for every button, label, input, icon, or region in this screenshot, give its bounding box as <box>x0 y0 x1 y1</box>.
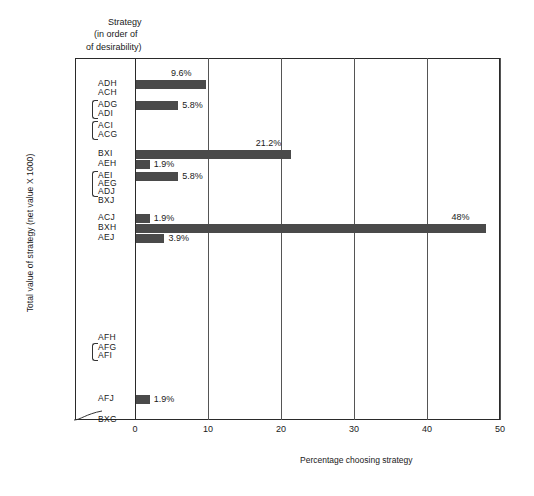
strategy-group-brace-2 <box>92 121 98 140</box>
plot-area <box>135 58 500 420</box>
bar-1.9-3 <box>136 160 150 169</box>
gridline-10 <box>208 58 209 420</box>
bar-value-label-7: 3.9% <box>168 233 189 243</box>
bar-3.9-7 <box>136 234 164 243</box>
bar-value-label-8: 1.9% <box>154 394 175 404</box>
bar-value-label-2: 21.2% <box>256 138 282 148</box>
x-tick-10: 10 <box>193 424 223 434</box>
gridline-50 <box>500 58 501 420</box>
strategy-label-ACG: ACG <box>98 129 117 139</box>
bar-48-6 <box>136 224 486 233</box>
strategy-label-ACJ: ACJ <box>98 212 115 222</box>
x-tick-40: 40 <box>412 424 442 434</box>
bar-9.6-0 <box>136 80 206 89</box>
bar-5.8-1 <box>136 101 178 110</box>
x-axis-title: Percentage choosing strategy <box>300 455 412 465</box>
strategy-label-AFH: AFH <box>98 332 116 342</box>
bar-value-label-4: 5.8% <box>182 171 203 181</box>
x-tick-20: 20 <box>266 424 296 434</box>
strategy-group-brace-1 <box>92 100 98 119</box>
bar-value-label-1: 5.8% <box>182 100 203 110</box>
bar-value-label-3: 1.9% <box>154 159 175 169</box>
strategy-label-BXH: BXH <box>98 222 116 232</box>
x-tick-50: 50 <box>485 424 515 434</box>
strategy-label-AFI: AFI <box>98 350 112 360</box>
bar-5.8-4 <box>136 172 178 181</box>
gridline-40 <box>427 58 428 420</box>
strategy-label-column: ADHACHADGADIACIACGBXIAEHAEIAEGADJBXJACJB… <box>0 0 135 496</box>
gridline-30 <box>354 58 355 420</box>
x-tick-30: 30 <box>339 424 369 434</box>
strategy-label-AEH: AEH <box>98 158 116 168</box>
strategy-label-AEJ: AEJ <box>98 232 115 242</box>
strategy-label-ADI: ADI <box>98 108 113 118</box>
bar-1.9-5 <box>136 214 150 223</box>
bar-chart-figure: Total value of strategy (net value X 100… <box>0 0 534 496</box>
bar-value-label-6: 48% <box>451 212 469 222</box>
bar-21.2-2 <box>136 150 291 159</box>
gridline-20 <box>281 58 282 420</box>
strategy-group-brace-3 <box>92 171 98 197</box>
bxg-leader-line <box>72 400 106 422</box>
strategy-label-ACH: ACH <box>98 87 117 97</box>
bar-value-label-5: 1.9% <box>154 213 175 223</box>
strategy-group-brace-4 <box>92 343 98 361</box>
bar-1.9-8 <box>136 395 150 404</box>
strategy-label-BXI: BXI <box>98 148 113 158</box>
strategy-label-BXJ: BXJ <box>98 195 115 205</box>
x-tick-0: 0 <box>120 424 150 434</box>
bar-value-label-0: 9.6% <box>171 68 192 78</box>
